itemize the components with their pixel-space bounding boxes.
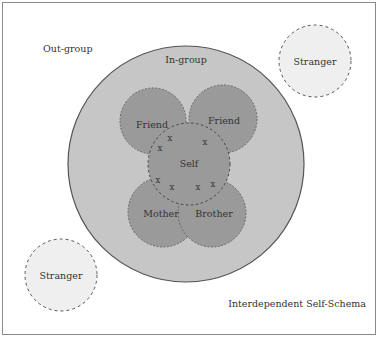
friend-left-label: Friend <box>136 119 168 130</box>
stranger-top-label: Stranger <box>294 56 337 67</box>
stranger-bottom-label: Stranger <box>40 270 83 281</box>
ingroup-label: In-group <box>165 54 207 65</box>
overlap-mark: x <box>156 175 161 185</box>
friend-right-label: Friend <box>208 115 240 126</box>
self-label: Self <box>180 158 200 169</box>
brother-label: Brother <box>195 208 233 219</box>
overlap-mark: x <box>203 137 208 147</box>
overlap-mark: x <box>158 143 163 153</box>
overlap-mark: x <box>168 133 173 143</box>
self-schema-diagram: Out-group In-group Friend Friend Self Mo… <box>0 0 379 338</box>
overlap-mark: x <box>196 182 201 192</box>
mother-label: Mother <box>143 208 179 219</box>
diagram-title: Interdependent Self-Schema <box>228 298 366 309</box>
overlap-mark: x <box>170 182 175 192</box>
overlap-mark: x <box>211 179 216 189</box>
outgroup-label: Out-group <box>43 43 92 54</box>
